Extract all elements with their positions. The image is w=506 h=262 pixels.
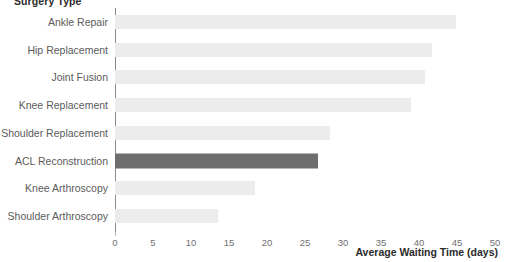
bar-chart: Surgery Type Ankle RepairHip Replacement… — [0, 0, 506, 262]
x-axis-tick — [419, 232, 420, 236]
x-axis-tick — [343, 232, 344, 236]
bar-row: Joint Fusion — [115, 64, 495, 92]
bar — [115, 43, 432, 57]
bar-row: Shoulder Replacement — [115, 119, 495, 147]
x-axis-tick-label: 0 — [112, 237, 117, 248]
x-axis-tick — [191, 232, 192, 236]
bar — [115, 70, 425, 84]
x-axis: 05101520253035404550 — [115, 232, 495, 233]
category-label: Knee Arthroscopy — [25, 182, 108, 194]
bar — [115, 153, 318, 168]
x-axis-tick-label: 30 — [338, 237, 349, 248]
category-label: Shoulder Replacement — [1, 127, 108, 139]
x-axis-tick-label: 20 — [262, 237, 273, 248]
x-axis-tick-label: 10 — [186, 237, 197, 248]
category-label: Shoulder Arthroscopy — [8, 210, 108, 222]
category-label: ACL Reconstruction — [15, 155, 108, 167]
x-axis-tick — [153, 232, 154, 236]
category-label: Knee Replacement — [19, 99, 108, 111]
x-axis-tick — [305, 232, 306, 236]
y-axis-title: Surgery Type — [14, 0, 82, 7]
x-axis-tick — [267, 232, 268, 236]
x-axis-title: Average Waiting Time (days) — [355, 246, 498, 258]
bar-row: Knee Arthroscopy — [115, 175, 495, 203]
x-axis-tick-label: 15 — [224, 237, 235, 248]
x-axis-tick-label: 25 — [300, 237, 311, 248]
x-axis-tick — [457, 232, 458, 236]
x-axis-tick — [229, 232, 230, 236]
bar — [115, 15, 456, 29]
category-label: Hip Replacement — [27, 44, 108, 56]
bar — [115, 98, 411, 112]
bar-row: ACL Reconstruction — [115, 147, 495, 175]
bar-row: Knee Replacement — [115, 91, 495, 119]
bar — [115, 126, 330, 140]
x-axis-tick-label: 5 — [150, 237, 155, 248]
x-axis-tick — [495, 232, 496, 236]
bar-row: Ankle Repair — [115, 8, 495, 36]
bar-row: Hip Replacement — [115, 36, 495, 64]
category-label: Ankle Repair — [48, 16, 108, 28]
x-axis-tick — [381, 232, 382, 236]
plot-area: Ankle RepairHip ReplacementJoint FusionK… — [115, 8, 495, 230]
bar — [115, 209, 218, 223]
category-label: Joint Fusion — [51, 71, 108, 83]
bar — [115, 181, 255, 195]
bar-row: Shoulder Arthroscopy — [115, 202, 495, 230]
x-axis-tick — [115, 232, 116, 236]
